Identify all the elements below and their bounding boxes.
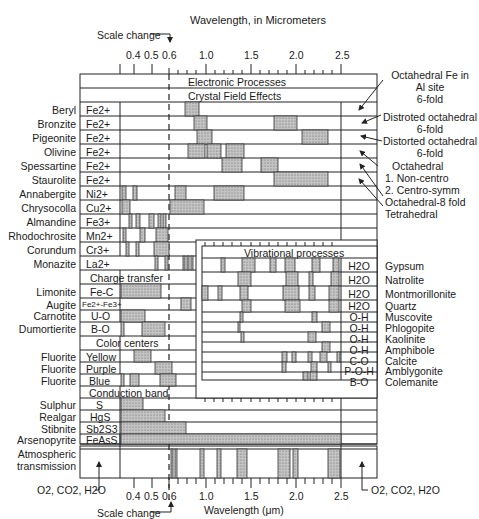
tick-label-0.4-bottom: 0.4: [126, 490, 141, 502]
group-label: B-O: [341, 376, 377, 388]
tick-label-2.5-bottom: 2.5: [334, 490, 349, 502]
mineral-label: Corundum: [0, 244, 76, 256]
mineral-label: Realgar: [0, 411, 76, 423]
ion-label: HgS: [90, 411, 110, 423]
annotation-line: Octahedral: [392, 160, 443, 172]
mineral-label: Sulphur: [0, 399, 76, 411]
annotation-line: 6-fold: [382, 123, 478, 135]
mineral-label: Bronzite: [0, 118, 76, 130]
annotation-line: Tetrahedral: [385, 208, 438, 220]
ion-label: Cr3+: [86, 244, 109, 256]
group-label: H2O: [341, 260, 377, 272]
ion-label: Ni2+: [86, 188, 108, 200]
annotation-line: 1. Non-centro: [385, 172, 449, 184]
section-color-centers: Color centers: [96, 337, 158, 349]
ion-label: Fe3+: [86, 216, 110, 228]
annotation-line: 6-fold: [382, 147, 478, 159]
section-vibrational-processes: Vibrational processes: [244, 247, 344, 259]
ion-label: FeAsS: [86, 434, 118, 446]
ion-label: Fe2+: [86, 146, 110, 158]
mineral-label: Colemanite: [385, 376, 438, 388]
mineral-label: Pigeonite: [0, 132, 76, 144]
ion-label: Fe2+: [86, 118, 110, 130]
tick-label-1.0-bottom: 1.0: [199, 490, 214, 502]
mineral-label: Staurolite: [0, 174, 76, 186]
mineral-label: Monazite: [0, 258, 76, 270]
mineral-label: Chrysocolla: [0, 202, 76, 214]
tick-label-0.5-bottom: 0.5: [144, 490, 159, 502]
mineral-label: Spessartine: [0, 160, 76, 172]
atmospheric-label-2: transmission: [0, 460, 76, 472]
ion-label: B-O: [91, 323, 110, 335]
mineral-label: Olivine: [0, 146, 76, 158]
section-crystal-field-effects: Crystal Field Effects: [188, 90, 281, 102]
mineral-label: Gypsum: [385, 260, 424, 272]
group-label: H2O: [341, 288, 377, 300]
section-conduction-band: Conduction band: [89, 387, 168, 399]
gases-label-left: O2, CO2, H2O: [37, 484, 106, 496]
annotation-line: Al site: [382, 81, 478, 93]
ion-label: Fe2+: [86, 104, 110, 116]
ion-label: Mn2+: [86, 230, 113, 242]
section-charge-transfer: Charge transfer: [90, 272, 163, 284]
ion-label: S: [96, 399, 103, 411]
gases-label-right: O2, CO2, H2O: [371, 484, 440, 496]
ion-label: Fe2+: [86, 174, 110, 186]
ion-label: Blue: [89, 375, 110, 387]
mineral-label: Dumortierite: [0, 323, 76, 335]
mineral-label: Arsenopyrite: [0, 434, 76, 446]
atmospheric-label-1: Atmospheric: [0, 448, 76, 460]
mineral-label: Annabergite: [0, 188, 76, 200]
ion-label: Yellow: [86, 351, 116, 363]
annotation-line: Octahedral-8 fold: [385, 196, 466, 208]
annotation-line: 6-fold: [382, 93, 478, 105]
annotation-line: Octahedral Fe in: [382, 69, 478, 81]
section-electronic-processes: Electronic Processes: [188, 76, 286, 88]
ion-label: Fe2+: [86, 132, 110, 144]
annotation-line: Distroted octahedral: [382, 111, 478, 123]
tick-label-1.5-bottom: 1.5: [244, 490, 259, 502]
mineral-label: Rhodochrosite: [0, 230, 76, 242]
bottom-axis-title: Wavelength (μm): [204, 504, 284, 516]
mineral-label: Almandine: [0, 216, 76, 228]
annotation-line: 2. Centro-symm: [385, 184, 460, 196]
mineral-label: Montmorillonite: [385, 288, 456, 300]
mineral-label: Fluorite: [0, 375, 76, 387]
ion-label: Fe-C: [90, 286, 113, 298]
ion-label: Purple: [86, 363, 116, 375]
mineral-label: Beryl: [0, 104, 76, 116]
mineral-label: Limonite: [0, 286, 76, 298]
annotation-line: Distorted octahedral: [382, 135, 478, 147]
ion-label: La2+: [86, 258, 110, 270]
tick-label-0.6-bottom: 0.6: [162, 490, 177, 502]
mineral-label: Carnotite: [0, 310, 76, 322]
ion-label: U-O: [91, 310, 110, 322]
ion-label: Fe2+: [86, 160, 110, 172]
tick-label-2.0-bottom: 2.0: [289, 490, 304, 502]
scale-change-label-bottom: Scale change: [97, 507, 161, 519]
group-label: H2O: [341, 274, 377, 286]
mineral-label: Fluorite: [0, 363, 76, 375]
ion-label: Cu2+: [86, 202, 111, 214]
mineral-label: Natrolite: [385, 274, 424, 286]
mineral-label: Fluorite: [0, 351, 76, 363]
